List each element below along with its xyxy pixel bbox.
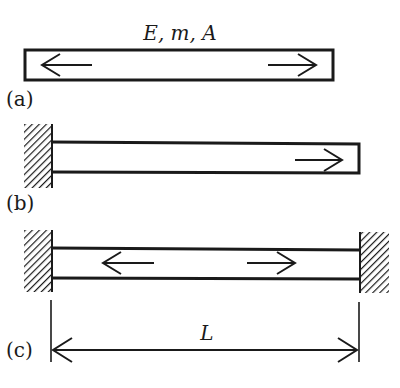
- bar-diagram: E, m, A (a) (b): [0, 0, 400, 388]
- fixed-wall-left-icon: [24, 230, 52, 292]
- panel-a: E, m, A (a): [6, 21, 333, 111]
- panel-b: (b): [6, 124, 359, 215]
- arrow-left-icon: [103, 252, 154, 274]
- bar-c-bottom: [52, 278, 360, 279]
- fixed-wall-right-icon: [360, 232, 389, 293]
- arrow-left-icon: [42, 54, 92, 76]
- arrow-right-icon: [268, 54, 316, 76]
- arrow-right-icon: [295, 149, 342, 171]
- bar-b: [52, 142, 359, 173]
- bar-c-top: [52, 248, 360, 250]
- arrow-right-icon: [247, 252, 295, 274]
- length-label: L: [199, 321, 213, 345]
- panel-label-b: (b): [6, 191, 34, 215]
- fixed-wall-icon: [24, 124, 52, 188]
- panel-label-a: (a): [6, 87, 34, 111]
- panel-label-c: (c): [6, 338, 33, 362]
- panel-c: L (c): [6, 230, 389, 362]
- properties-label: E, m, A: [142, 21, 216, 45]
